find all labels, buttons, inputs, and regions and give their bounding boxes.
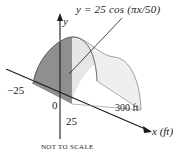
- tunnel-cross-section-figure: y = 25 cos (πx/50) y 0 −25 25 300 ft x (…: [0, 0, 173, 158]
- length-dimension-label: 300 ft: [115, 103, 139, 113]
- not-to-scale-note: NOT TO SCALE: [41, 144, 94, 151]
- x-axis-arrowhead: [143, 126, 152, 133]
- x-axis-label-text: x (ft): [152, 125, 173, 137]
- x-axis-label: x (ft): [152, 126, 173, 137]
- y-axis-label: y: [63, 16, 68, 27]
- origin-label: 0: [52, 100, 58, 111]
- x-tick-negative-25: −25: [7, 85, 24, 96]
- equation-label: y = 25 cos (πx/50): [76, 4, 160, 15]
- equation-text: y = 25 cos (πx/50): [76, 3, 160, 15]
- figure-graphic: [0, 0, 173, 158]
- x-tick-positive-25: 25: [66, 116, 77, 127]
